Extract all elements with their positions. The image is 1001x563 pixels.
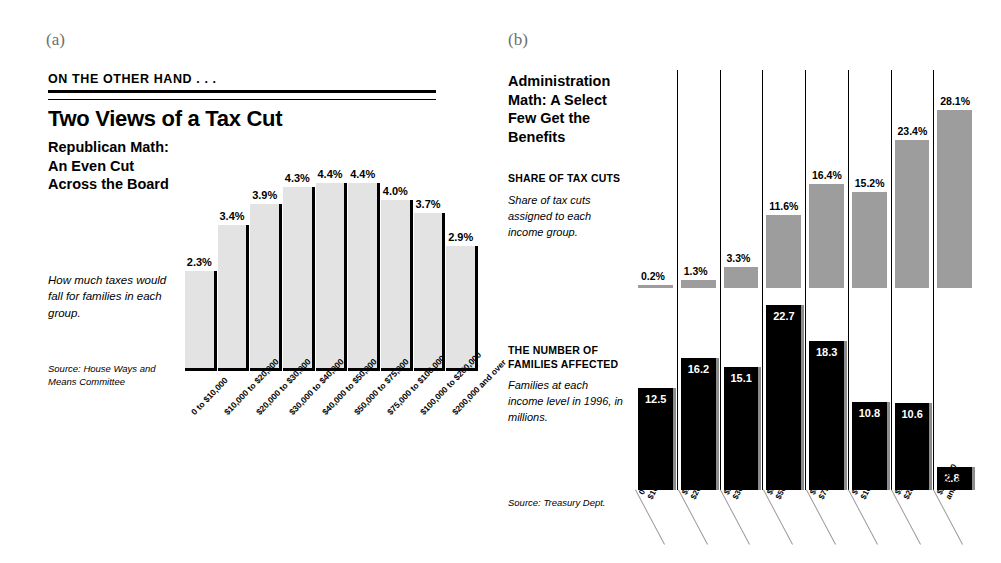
share-value-label: 11.6%: [769, 200, 798, 212]
share-bar-area: 3.3%: [721, 70, 763, 288]
bar-value-label: 2.3%: [187, 256, 212, 268]
share-value-label: 23.4%: [898, 125, 928, 137]
panel-b-share-block: SHARE OF TAX CUTS Share of tax cuts assi…: [508, 172, 626, 240]
panel-b: Administration Math: A Select Few Get th…: [508, 72, 976, 542]
tick-label: $40,000 to $50,000: [316, 408, 345, 508]
share-bar-wrap: 11.6%: [766, 215, 801, 288]
share-value-label: 1.3%: [684, 265, 708, 277]
families-value-label: 10.6: [902, 408, 923, 420]
tick-label: $200,000and over: [933, 490, 976, 563]
share-bar: [852, 192, 887, 288]
panel-b-tick-labels: 0 to$10,000$10,000 to$20,000$20,000 to$3…: [635, 490, 976, 563]
share-bar-wrap: 16.4%: [809, 184, 844, 288]
share-bar: [766, 215, 801, 288]
kicker-text: ON THE OTHER HAND . . .: [48, 72, 478, 86]
families-value-label: 12.5: [645, 393, 666, 405]
bar: [348, 183, 377, 368]
share-bar-area: 1.3%: [678, 70, 720, 288]
panel-b-source-block: Source: Treasury Dept.: [508, 496, 626, 509]
bar-value-label: 3.4%: [219, 210, 244, 222]
share-bar-area: 15.2%: [849, 70, 891, 288]
bar-group: 3.4%: [218, 158, 247, 368]
tick-label: $30,000 to $40,000: [283, 408, 312, 508]
tick-label: $75,000 to $100,000: [381, 408, 410, 508]
families-section-blurb: Families at each income level in 1996, i…: [508, 378, 626, 426]
share-bar: [638, 285, 673, 288]
tick-label: $100,000 to$200,000: [891, 490, 934, 563]
share-value-label: 16.4%: [812, 169, 842, 181]
families-section-label: THE NUMBER OF FAMILIES AFFECTED: [508, 344, 626, 371]
families-value-label: 16.2: [688, 363, 709, 375]
bar: [446, 246, 475, 368]
tick-label: $50,000 to$75,000: [806, 490, 849, 563]
share-bar-wrap: 0.2%: [638, 285, 673, 288]
families-value-label: 18.3: [816, 346, 837, 358]
share-value-label: 15.2%: [855, 177, 885, 189]
panel-b-chart: 0.2%12.51.3%16.23.3%15.111.6%22.716.4%18…: [635, 70, 976, 490]
figure-label-b: (b): [508, 30, 528, 50]
share-bar-area: 11.6%: [763, 70, 805, 288]
panel-b-columns: 0.2%12.51.3%16.23.3%15.111.6%22.716.4%18…: [635, 70, 976, 490]
chart-column: 28.1%2.8: [933, 70, 976, 490]
share-bar-wrap: 1.3%: [681, 280, 716, 288]
panel-a-tick-labels: 0 to $10,000$10,000 to $20,000$20,000 to…: [185, 408, 475, 508]
families-value-label: 10.8: [859, 407, 880, 419]
panel-a-blurb: How much taxes would fall for families i…: [48, 272, 172, 321]
share-bar-wrap: 23.4%: [895, 140, 930, 288]
tick-label: $75,000 to$100,000: [848, 490, 891, 563]
bar-value-label: 4.3%: [285, 172, 310, 184]
panel-a-bars: 2.3%3.4%3.9%4.3%4.4%4.4%4.0%3.7%2.9%: [185, 158, 475, 368]
panel-a: ON THE OTHER HAND . . . Two Views of a T…: [48, 72, 478, 482]
bar: [316, 183, 345, 368]
share-bar: [937, 110, 972, 288]
bar: [283, 187, 312, 368]
share-bar-area: 23.4%: [892, 70, 934, 288]
panel-b-families-block: THE NUMBER OF FAMILIES AFFECTED Families…: [508, 344, 626, 426]
families-value-label: 15.1: [731, 372, 752, 384]
bar-value-label: 4.0%: [383, 185, 408, 197]
bar-value-label: 4.4%: [317, 168, 342, 180]
panel-a-subhead: Republican Math: An Even Cut Across the …: [48, 138, 172, 194]
panel-a-source: Source: House Ways and Means Committee: [48, 362, 172, 388]
bar-group: 4.4%: [348, 158, 377, 368]
share-value-label: 28.1%: [940, 95, 970, 107]
tick-label: $20,000 to $30,000: [250, 408, 279, 508]
share-bar: [681, 280, 716, 288]
panel-a-chart: 2.3%3.4%3.9%4.3%4.4%4.4%4.0%3.7%2.9% 0 t…: [185, 108, 475, 368]
share-bar: [895, 140, 930, 288]
bar-value-label: 3.7%: [416, 198, 441, 210]
bar-group: 3.7%: [414, 158, 443, 368]
tick-label: $200,000 and over: [446, 408, 475, 508]
tick-label: $100,000 to $200,000: [414, 408, 443, 508]
tick-label: $10,000 to$20,000: [678, 490, 721, 563]
bar-group: 4.3%: [283, 158, 312, 368]
bar: [414, 213, 443, 368]
share-bar-wrap: 28.1%: [937, 110, 972, 288]
panel-a-subhead-block: Republican Math: An Even Cut Across the …: [48, 138, 172, 194]
families-bar-area: 2.8: [934, 290, 976, 490]
share-bar-wrap: 15.2%: [852, 192, 887, 288]
share-value-label: 3.3%: [727, 252, 751, 264]
tick-label: $10,000 to $20,000: [218, 408, 247, 508]
share-value-label: 0.2%: [641, 270, 665, 282]
chart-column: 11.6%22.7: [762, 70, 805, 490]
chart-column: 3.3%15.1: [720, 70, 763, 490]
tick-label: 0 to$10,000: [635, 490, 678, 563]
bar-group: 2.3%: [185, 158, 214, 368]
bar-value-label: 3.9%: [252, 189, 277, 201]
bar-group: 4.4%: [316, 158, 345, 368]
tick-label: $30,000 to$50,000: [763, 490, 806, 563]
rule-thin: [48, 99, 436, 100]
share-section-label: SHARE OF TAX CUTS: [508, 172, 626, 186]
chart-column: 0.2%12.5: [635, 70, 677, 490]
bar: [381, 200, 410, 368]
panel-b-title: Administration Math: A Select Few Get th…: [508, 72, 626, 146]
tick-label: 0 to $10,000: [185, 408, 214, 508]
chart-column: 15.2%10.8: [848, 70, 891, 490]
panel-a-source-block: Source: House Ways and Means Committee: [48, 362, 172, 388]
panel-b-side-column: Administration Math: A Select Few Get th…: [508, 72, 630, 542]
share-bar: [724, 267, 759, 288]
bar-group: 3.9%: [250, 158, 279, 368]
share-bar-wrap: 3.3%: [724, 267, 759, 288]
panel-a-blurb-block: How much taxes would fall for families i…: [48, 272, 172, 321]
